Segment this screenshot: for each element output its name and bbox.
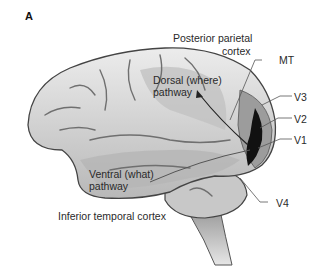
label-posterior-parietal-cortex: cortex: [222, 45, 251, 57]
label-v1: V1: [294, 134, 307, 146]
label-dorsal-pathway-2: pathway: [153, 86, 192, 98]
label-posterior-parietal: Posterior parietal: [173, 32, 252, 44]
label-ventral-pathway: Ventral (what): [89, 168, 154, 180]
label-v3: V3: [294, 91, 307, 103]
label-inferior-temporal: Inferior temporal cortex: [58, 210, 166, 222]
label-v2: V2: [294, 113, 307, 125]
label-v4: V4: [276, 197, 289, 209]
label-dorsal-pathway: Dorsal (where): [153, 74, 222, 86]
label-mt: MT: [279, 54, 294, 66]
brain-illustration: [0, 0, 326, 277]
label-ventral-pathway-2: pathway: [89, 180, 128, 192]
brainstem: [190, 210, 232, 265]
panel-label: A: [25, 10, 33, 22]
brain-figure: A Posterior parietal cortex MT Dorsal (w…: [0, 0, 326, 277]
